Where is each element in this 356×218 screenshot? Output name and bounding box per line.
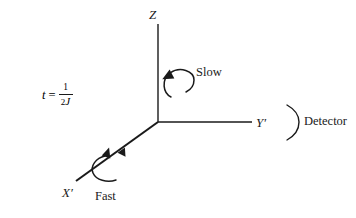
equation-variable: t	[42, 88, 45, 103]
x-axis-label: X′	[62, 184, 73, 200]
fraction-denominator: 2J	[59, 95, 72, 108]
x-axis-prime-mark: ′	[70, 185, 73, 200]
detector-label: Detector	[304, 115, 347, 128]
axis-diagram	[0, 0, 356, 218]
slow-rotation-label: Slow	[196, 66, 222, 79]
x-axis-line	[76, 122, 158, 181]
detector-arc	[287, 105, 299, 140]
fast-rotation-label: Fast	[95, 190, 116, 203]
y-axis-prime-mark: ′	[263, 115, 266, 130]
x-axis-label-text: X	[62, 185, 70, 200]
z-axis-label: Z	[149, 8, 156, 21]
equation-equals-sign: =	[48, 88, 55, 103]
figure-canvas: t = 1 2J Z Y′ X′ Slow Fast Detector	[0, 0, 356, 218]
equation-fraction: 1 2J	[59, 83, 73, 107]
fraction-numerator: 1	[61, 83, 70, 94]
denominator-symbol: J	[65, 95, 70, 107]
time-equation: t = 1 2J	[42, 83, 73, 107]
y-axis-label: Y′	[256, 114, 266, 130]
